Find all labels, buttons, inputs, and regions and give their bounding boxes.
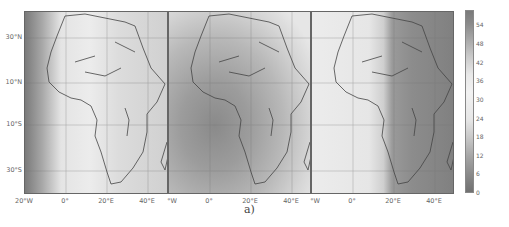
colorbar-tick-12: 12 <box>476 152 484 159</box>
lon-label-p3-w: °W <box>310 197 320 205</box>
map-panel-1-plot <box>25 12 168 194</box>
lon-label-p1-20w: 20°W <box>15 197 33 205</box>
lon-label-p3-40e: 40°E <box>426 197 442 205</box>
lon-label-p3-0: 0° <box>348 197 355 205</box>
colorbar <box>465 10 474 193</box>
colorbar-tick-6: 6 <box>476 170 480 177</box>
colorbar-tick-18: 18 <box>476 133 484 140</box>
figure: 30°N 10°N 10°S 30°S <box>0 0 509 227</box>
lat-label-30s: 30°S <box>0 166 22 174</box>
lon-label-p1-0: 0° <box>61 197 68 205</box>
lon-label-p1-20e: 20°E <box>98 197 114 205</box>
colorbar-tick-30: 30 <box>476 96 484 103</box>
lon-label-p1-40e: 40°E <box>139 197 155 205</box>
lon-label-p2-0: 0° <box>205 197 212 205</box>
map-panel-3 <box>311 11 454 194</box>
lat-label-10n: 10°N <box>0 78 22 86</box>
colorbar-tick-36: 36 <box>476 77 484 84</box>
lat-label-30n: 30°N <box>0 33 22 41</box>
colorbar-tick-0: 0 <box>476 189 480 196</box>
map-panel-3-plot <box>312 12 454 194</box>
colorbar-tick-48: 48 <box>476 40 484 47</box>
map-panel-1 <box>24 11 168 194</box>
lat-label-10s: 10°S <box>0 120 22 128</box>
lon-label-p3-20e: 20°E <box>385 197 401 205</box>
colorbar-tick-54: 54 <box>476 21 484 28</box>
map-panel-2-plot <box>169 12 311 194</box>
lon-label-p2-w: °W <box>167 197 177 205</box>
lon-label-p2-40e: 40°E <box>283 197 299 205</box>
colorbar-tick-24: 24 <box>476 115 484 122</box>
map-panel-2 <box>168 11 311 194</box>
figure-caption: a) <box>244 203 255 216</box>
colorbar-tick-42: 42 <box>476 59 484 66</box>
